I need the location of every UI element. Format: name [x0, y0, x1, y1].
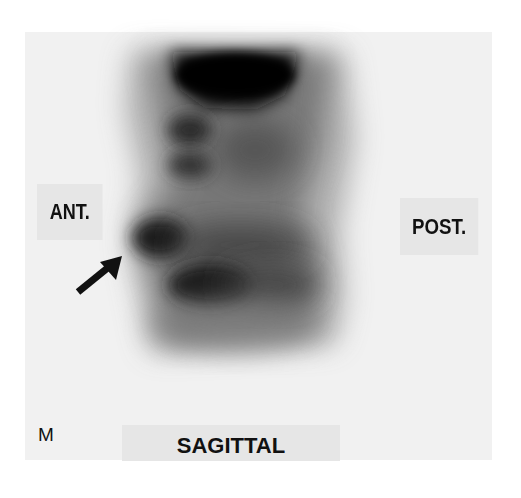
view-label-text: SAGITTAL [177, 433, 285, 459]
posterior-label-text: POST. [412, 214, 466, 240]
posterior-label: POST. [400, 198, 478, 255]
arrow-icon [70, 250, 130, 300]
anterior-label: ANT. [37, 184, 103, 240]
anterior-label-text: ANT. [50, 199, 90, 225]
marker-m: M [38, 424, 54, 446]
view-label: SAGITTAL [122, 425, 340, 461]
